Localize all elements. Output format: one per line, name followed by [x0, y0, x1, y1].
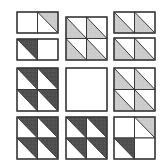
r2c1-block: [17, 68, 58, 111]
r1c1-bottom-rect: [17, 39, 58, 60]
r1c3-bottom-rect: [114, 38, 155, 60]
unit-square: [17, 12, 38, 33]
r3c1-block: [17, 117, 58, 159]
unit-square: [38, 39, 59, 60]
r1c1-top-rect: [17, 12, 58, 33]
unit-square: [66, 68, 107, 111]
r2c3-block: [114, 68, 155, 111]
r3c2-block: [66, 117, 107, 159]
r1c3-top-rect: [114, 12, 155, 33]
unit-square: [114, 117, 135, 138]
quilt-block-diagram: [0, 0, 164, 164]
r2c2-plain-square: [66, 68, 107, 111]
r1c2-block: [66, 17, 107, 60]
r3c3-block: [114, 117, 155, 159]
unit-square: [135, 138, 156, 159]
